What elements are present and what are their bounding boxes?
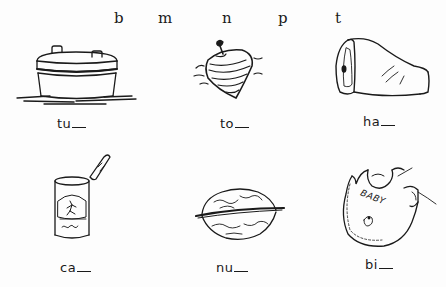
can-icon [50,153,114,245]
stub-text: to [220,116,234,131]
letter-b: b [114,9,124,27]
word-stub-can: ca [60,260,91,275]
answer-blank[interactable] [235,125,249,128]
phonics-worksheet: b m n p t tu [0,0,446,287]
stub-text: ha [363,114,380,129]
word-stub-top: to [220,116,249,131]
answer-blank[interactable] [379,266,393,269]
spinning-top-icon [192,38,268,102]
bib-icon: BABY [338,168,438,250]
answer-blank[interactable] [381,123,395,126]
answer-blank[interactable] [72,125,86,128]
letter-m: m [158,9,172,27]
stub-text: tu [57,116,71,131]
walnut-icon [196,186,284,242]
stub-text: nu [216,260,233,275]
letter-t: t [335,9,341,27]
answer-blank[interactable] [234,269,248,272]
word-stub-bib: bi [365,257,393,272]
tub-icon [14,44,138,104]
ham-icon [334,36,432,102]
stub-text: bi [365,257,378,272]
word-stub-nut: nu [216,260,248,275]
word-stub-ham: ha [363,114,395,129]
stub-text: ca [60,260,76,275]
letter-n: n [222,9,232,27]
answer-blank[interactable] [77,269,91,272]
word-stub-tub: tu [57,116,86,131]
letter-p: p [278,9,288,27]
